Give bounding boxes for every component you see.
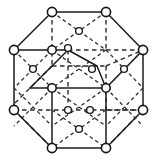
atom-corner-front-top-right [138, 45, 147, 54]
atom-corner-front-bottom-left [9, 105, 18, 114]
atom-interior-tetra-c [65, 107, 72, 114]
atom-corner-front-top-left [9, 45, 18, 54]
atom-corner-inner-top-left [48, 46, 56, 54]
atom-corner-back-bottom-left [47, 143, 56, 152]
crystal-unit-cell-figure: Cubic crystal unit cell Solid lines = vi… [0, 0, 159, 164]
atom-corner-back-top-right [101, 7, 110, 16]
atom-corner-inner-mid-right [102, 84, 110, 92]
atom-corner-inner-mid-left [48, 84, 56, 92]
bond-solid-interior-a [68, 50, 97, 66]
edge-top-right-slant [106, 12, 143, 50]
atom-face-center-bottom [76, 126, 83, 133]
lattice-diagram-svg [0, 0, 159, 164]
edge-top-left-slant [14, 12, 52, 50]
atom-corner-back-bottom-right [101, 143, 110, 152]
atom-interior-tetra-a [65, 45, 72, 52]
atom-group [9, 7, 147, 152]
atom-corner-front-bottom-right [138, 105, 147, 114]
atom-corner-back-top-left [47, 7, 56, 16]
edge-bottom-right-slant [106, 110, 143, 148]
edge-bottom-left-slant [14, 110, 52, 148]
atom-face-center-right [121, 66, 128, 73]
atom-face-center-left [30, 66, 37, 73]
atom-interior-tetra-b [87, 107, 94, 114]
hidden-edge-back-right-diagonal [106, 50, 143, 66]
atom-face-center-top [76, 28, 83, 35]
atom-interior-tetra-d [89, 66, 96, 73]
